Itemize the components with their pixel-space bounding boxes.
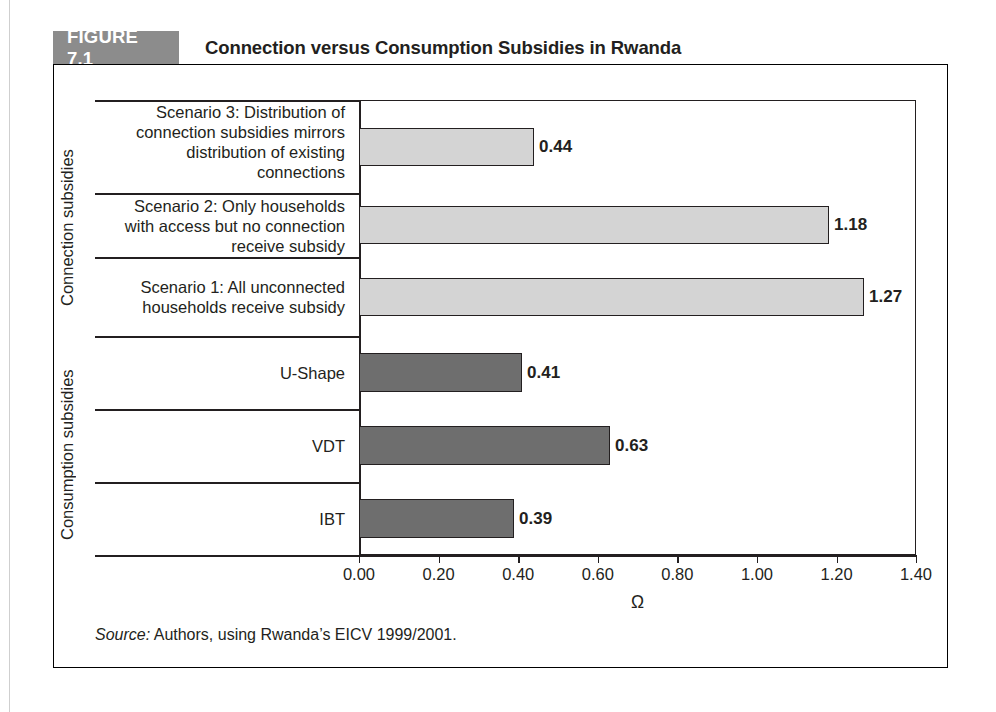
x-axis-tick	[439, 555, 440, 563]
x-axis-tick	[677, 555, 678, 563]
category-label-ibt: IBT	[95, 483, 353, 555]
x-axis-tick	[916, 555, 917, 563]
category-label-line: Scenario 2: Only households	[95, 196, 345, 216]
figure-header: FIGURE 7.1 Connection versus Consumption…	[53, 31, 681, 64]
bar-u-shape	[359, 353, 522, 392]
x-axis-tick	[837, 555, 838, 563]
x-axis-tick	[518, 555, 519, 563]
zero-value-axis	[359, 100, 361, 555]
category-label-line: Scenario 3: Distribution of	[95, 102, 345, 122]
bar-ibt	[359, 499, 514, 538]
bar-value-u-shape: 0.41	[527, 363, 560, 383]
source-note: Source: Authors, using Rwanda’s EICV 199…	[95, 626, 457, 644]
x-axis-tick-label: 0.60	[582, 565, 614, 584]
category-label-scenario-3: Scenario 3: Distribution of connection s…	[95, 100, 353, 183]
category-label-line: receive subsidy	[95, 236, 345, 256]
figure-title: Connection versus Consumption Subsidies …	[179, 31, 681, 64]
source-text: Authors, using Rwanda’s EICV 1999/2001.	[150, 626, 457, 643]
bar-scenario-1	[359, 278, 864, 316]
page-edge-line	[9, 0, 10, 712]
figure-box: Connection subsidies Consumption subsidi…	[53, 64, 948, 668]
bar-value-scenario-2: 1.18	[834, 215, 867, 235]
x-axis-tick-label: 1.00	[741, 565, 773, 584]
source-label: Source:	[95, 626, 150, 643]
x-axis-tick	[598, 555, 599, 563]
bar-value-vdt: 0.63	[615, 436, 648, 456]
category-label-line: distribution of existing	[95, 142, 345, 162]
category-label-scenario-2: Scenario 2: Only households with access …	[95, 194, 353, 257]
group-axis-label-consumption: Consumption subsidies	[54, 355, 80, 555]
bar-vdt	[359, 426, 610, 465]
x-axis-tick-label: 0.00	[343, 565, 375, 584]
x-axis-title: Ω	[359, 592, 916, 613]
figure-number-badge: FIGURE 7.1	[53, 31, 179, 64]
category-label-u-shape: U-Shape	[95, 337, 353, 409]
category-label-line: connections	[95, 162, 345, 182]
x-axis-tick-label: 1.20	[821, 565, 853, 584]
category-label-line: with access but no connection	[95, 216, 345, 236]
x-axis-tick-label: 0.20	[423, 565, 455, 584]
x-axis-line	[95, 555, 916, 557]
plot-frame	[359, 100, 916, 555]
bar-value-scenario-1: 1.27	[869, 287, 902, 307]
x-axis-tick-label: 0.40	[502, 565, 534, 584]
bar-scenario-3	[359, 128, 534, 166]
bar-scenario-2	[359, 206, 829, 244]
category-label-line: VDT	[95, 436, 345, 456]
x-axis-tick-label: 1.40	[900, 565, 932, 584]
category-label-line: IBT	[95, 509, 345, 529]
bar-value-ibt: 0.39	[519, 509, 552, 529]
category-label-line: U-Shape	[95, 363, 345, 383]
bar-value-scenario-3: 0.44	[539, 137, 572, 157]
x-axis-tick	[359, 555, 360, 563]
category-label-line: Scenario 1: All unconnected	[95, 277, 345, 297]
category-label-line: households receive subsidy	[95, 297, 345, 317]
x-axis-tick	[757, 555, 758, 563]
group-axis-label-connection: Connection subsidies	[54, 100, 80, 355]
bar-chart: Connection subsidies Consumption subsidi…	[54, 65, 947, 667]
x-axis-tick-label: 0.80	[661, 565, 693, 584]
category-label-scenario-1: Scenario 1: All unconnected households r…	[95, 258, 353, 336]
category-label-line: connection subsidies mirrors	[95, 122, 345, 142]
category-label-vdt: VDT	[95, 410, 353, 482]
